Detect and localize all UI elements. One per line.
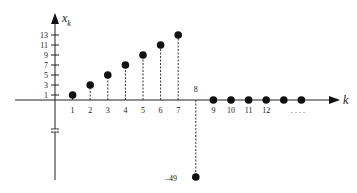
y-tick-label: 3 bbox=[44, 81, 48, 90]
y-tick-label: 7 bbox=[44, 61, 48, 70]
y-tick-label: 1 bbox=[44, 91, 48, 100]
x-tick-label: 4 bbox=[123, 106, 127, 115]
negative-value-label: –49 bbox=[164, 174, 177, 183]
data-point bbox=[139, 51, 147, 59]
y-tick-label: 11 bbox=[40, 41, 48, 50]
x-tick-label: 2 bbox=[88, 106, 92, 115]
x-tick-label: 12 bbox=[262, 106, 270, 115]
data-point bbox=[227, 96, 235, 104]
data-point bbox=[157, 41, 165, 49]
x-tick-label: 7 bbox=[176, 106, 180, 115]
data-point bbox=[174, 31, 182, 39]
y-tick-label: 9 bbox=[44, 51, 48, 60]
x-axis-label: k bbox=[343, 93, 349, 107]
data-point bbox=[69, 91, 77, 99]
x-tick-label: 9 bbox=[211, 106, 215, 115]
x-tick-label: 11 bbox=[245, 106, 253, 115]
x-tick-label: 10 bbox=[227, 106, 235, 115]
x-axis-arrow-icon bbox=[329, 96, 340, 104]
x-tick-label: 5 bbox=[141, 106, 145, 115]
y-ticks: 135791113 bbox=[40, 31, 59, 100]
y-axis-arrow-icon bbox=[51, 13, 59, 24]
y-axis-label: xk bbox=[61, 11, 71, 28]
data-point bbox=[86, 81, 94, 89]
x-tick-label: 8 bbox=[194, 85, 198, 94]
data-point bbox=[245, 96, 253, 104]
y-tick-label: 13 bbox=[40, 31, 48, 40]
data-point bbox=[122, 61, 130, 69]
x-tick-label: 3 bbox=[106, 106, 110, 115]
data-point bbox=[298, 96, 306, 104]
ellipsis-label: . . . . bbox=[291, 106, 305, 115]
data-point bbox=[192, 173, 200, 181]
data-point bbox=[262, 96, 270, 104]
data-point bbox=[210, 96, 218, 104]
data-point bbox=[280, 96, 288, 104]
y-axis-break-icon bbox=[51, 129, 59, 132]
x-tick-label: 6 bbox=[159, 106, 163, 115]
data-point bbox=[104, 71, 112, 79]
y-tick-label: 5 bbox=[44, 71, 48, 80]
stem-plot: k xk 135791113 123456789101112 . . . . –… bbox=[0, 0, 357, 193]
x-tick-label: 1 bbox=[71, 106, 75, 115]
